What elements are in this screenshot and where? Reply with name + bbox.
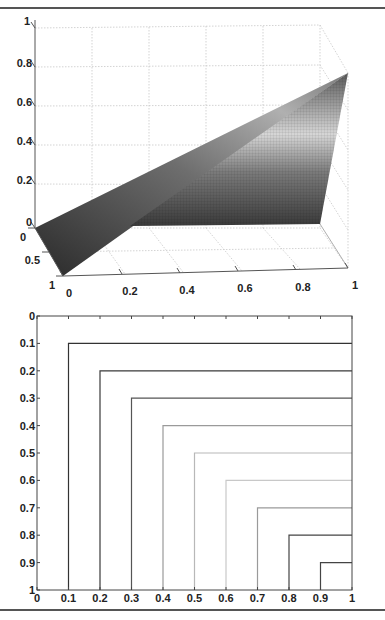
y-tick: 1 xyxy=(49,279,55,291)
step-plot: 00.10.20.30.40.50.60.70.80.91 00.10.20.3… xyxy=(20,310,355,604)
y-tick: 0.4 xyxy=(20,420,36,432)
y-tick: 0.3 xyxy=(20,392,35,404)
z-tick: 1 xyxy=(24,15,30,27)
y-tick: 0.8 xyxy=(20,529,35,541)
step-y-tick-labels: 00.10.20.30.40.50.60.70.80.91 xyxy=(20,310,36,596)
y-tick: 0 xyxy=(20,231,26,243)
x-tick: 1 xyxy=(349,592,355,604)
x-axis-line xyxy=(63,268,348,276)
x-tick: 0.2 xyxy=(122,285,137,297)
z-tick: 0.8 xyxy=(17,57,32,69)
x-tick: 0.5 xyxy=(187,592,202,604)
x-tick: 0.1 xyxy=(61,592,76,604)
x-tick: 0.8 xyxy=(295,281,310,293)
x-tick: 0.3 xyxy=(124,592,139,604)
y-tick: 0 xyxy=(29,310,35,322)
z-tick: 0 xyxy=(26,216,32,228)
series-level-0.1 xyxy=(69,343,353,590)
surface-plot: 1 0.8 0.6 0.4 0.2 0 0 0.5 1 0 0.2 0.4 0.… xyxy=(17,15,358,299)
x-tick: 0 xyxy=(66,287,72,299)
surface xyxy=(35,73,348,276)
x-tick: 0.6 xyxy=(237,282,252,294)
x-tick: 0.7 xyxy=(250,592,265,604)
y-tick: 0.6 xyxy=(20,474,35,486)
x-tick: 0.6 xyxy=(218,592,233,604)
figure: 1 0.8 0.6 0.4 0.2 0 0 0.5 1 0 0.2 0.4 0.… xyxy=(0,0,385,620)
y-tick: 0.7 xyxy=(20,502,35,514)
step-x-tick-labels: 00.10.20.30.40.50.60.70.80.91 xyxy=(34,592,355,604)
z-tick: 0.4 xyxy=(17,135,33,147)
y-tick: 0.5 xyxy=(25,254,40,266)
x-tick: 1 xyxy=(352,279,358,291)
y-tick: 0.2 xyxy=(20,365,35,377)
series-level-0.3 xyxy=(132,398,353,590)
series-level-0.7 xyxy=(258,508,353,590)
y-tick: 0.1 xyxy=(20,337,35,349)
step-series xyxy=(69,343,353,590)
x-tick: 0 xyxy=(34,592,40,604)
z-tick: 0.6 xyxy=(17,96,32,108)
z-tick: 0.2 xyxy=(17,174,32,186)
x-tick: 0.4 xyxy=(155,592,171,604)
x-tick: 0.2 xyxy=(92,592,107,604)
x-tick: 0.9 xyxy=(313,592,328,604)
y-tick: 0.9 xyxy=(20,557,35,569)
z-tick-labels: 1 0.8 0.6 0.4 0.2 0 xyxy=(17,15,33,228)
y-tick: 0.5 xyxy=(20,447,35,459)
x-tick: 0.8 xyxy=(281,592,296,604)
x-tick: 0.4 xyxy=(179,284,195,296)
series-level-0.5 xyxy=(195,453,353,590)
series-level-0.9 xyxy=(321,563,353,590)
x-tick-labels: 0 0.2 0.4 0.6 0.8 1 xyxy=(66,279,358,299)
